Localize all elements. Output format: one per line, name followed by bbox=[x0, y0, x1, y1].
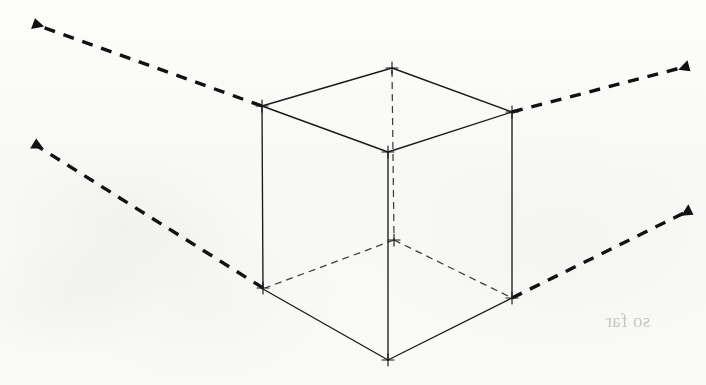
figure-page: when a box needs awide angle with a that… bbox=[0, 0, 706, 385]
cube-visible-edges bbox=[262, 68, 512, 360]
edge-bottom-left-to-bottom-front bbox=[263, 289, 388, 360]
hidden-edge-vertical-back bbox=[392, 70, 394, 240]
edge-bottom-front-to-bottom-right bbox=[388, 298, 512, 360]
vertex-mark-top-front bbox=[382, 146, 394, 158]
hidden-edge-back-to-bottom-right bbox=[394, 240, 510, 297]
upper-right-vanishing-guide bbox=[512, 66, 688, 112]
vertex-mark-bottom-front bbox=[382, 354, 394, 366]
edge-vertical-left bbox=[262, 106, 263, 289]
vertex-mark-bottom-back-hidden bbox=[388, 234, 400, 246]
lower-left-vanishing-guide bbox=[34, 144, 263, 288]
lower-right-vanishing-guide bbox=[512, 210, 690, 298]
vertex-mark-top-left bbox=[256, 100, 268, 112]
upper-left-vanishing-guide bbox=[34, 24, 262, 106]
perspective-cube-drawing bbox=[0, 0, 706, 385]
vertex-mark-bottom-right bbox=[506, 292, 518, 304]
cube-vertex-marks bbox=[256, 62, 518, 366]
edge-top-back-to-top-right bbox=[392, 68, 512, 112]
hidden-edge-back-to-bottom-left bbox=[265, 240, 394, 288]
edge-top-left-to-top-back bbox=[262, 68, 392, 106]
vertex-mark-top-back bbox=[386, 62, 398, 74]
vertex-mark-top-right bbox=[506, 106, 518, 118]
edge-top-left-to-top-front bbox=[262, 106, 388, 152]
vanishing-guide-lines bbox=[34, 24, 690, 298]
edge-top-front-to-top-right bbox=[388, 112, 512, 152]
